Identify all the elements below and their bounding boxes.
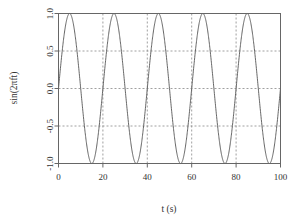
y-tick-label: 1.0 <box>45 7 55 19</box>
x-tick-label: 80 <box>232 172 242 182</box>
y-tick-label: 0.5 <box>45 45 55 57</box>
y-tick-label: 0.0 <box>45 82 55 94</box>
y-axis-title: sin(2πft) <box>9 72 20 105</box>
figure-background <box>0 0 293 223</box>
x-tick-label: 60 <box>187 172 197 182</box>
x-tick-label: 100 <box>274 172 288 182</box>
x-axis-title: t (s) <box>161 204 176 215</box>
sine-wave-plot: 020406080100 1.00.50.0-0.5-1.0 t (s) sin… <box>0 0 293 223</box>
x-tick-label: 40 <box>143 172 153 182</box>
x-tick-label: 0 <box>56 172 61 182</box>
chart-figure: 020406080100 1.00.50.0-0.5-1.0 t (s) sin… <box>0 0 293 223</box>
y-tick-label: -1.0 <box>45 156 55 171</box>
y-tick-label: -0.5 <box>45 118 55 133</box>
x-tick-label: 20 <box>98 172 108 182</box>
